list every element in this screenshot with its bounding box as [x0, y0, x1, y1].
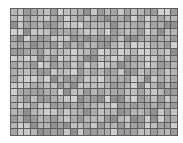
- mosaic-tile: [98, 83, 104, 89]
- mosaic-tile: [105, 83, 111, 89]
- mosaic-tile: [125, 103, 131, 109]
- mosaic-tile: [111, 83, 117, 89]
- mosaic-tile: [11, 109, 17, 115]
- mosaic-tile: [71, 49, 77, 55]
- mosaic-tile: [84, 129, 90, 135]
- mosaic-tile: [151, 56, 157, 62]
- mosaic-tile: [98, 103, 104, 109]
- mosaic-tile: [18, 29, 24, 35]
- mosaic-tile: [44, 9, 50, 15]
- mosaic-tile: [84, 123, 90, 129]
- mosaic-tile: [31, 49, 37, 55]
- mosaic-tile: [58, 49, 64, 55]
- mosaic-tile: [145, 109, 151, 115]
- mosaic-tile: [138, 83, 144, 89]
- mosaic-tile: [118, 89, 124, 95]
- mosaic-tile: [151, 96, 157, 102]
- mosaic-tile: [105, 49, 111, 55]
- mosaic-tile: [125, 29, 131, 35]
- mosaic-tile: [18, 49, 24, 55]
- mosaic-tile: [111, 96, 117, 102]
- mosaic-tile: [58, 83, 64, 89]
- mosaic-tile: [98, 42, 104, 48]
- mosaic-tile: [125, 89, 131, 95]
- mosaic-tile: [145, 123, 151, 129]
- mosaic-tile: [38, 36, 44, 42]
- mosaic-tile: [145, 116, 151, 122]
- mosaic-tile: [125, 9, 131, 15]
- mosaic-tile: [51, 36, 57, 42]
- mosaic-tile: [24, 9, 30, 15]
- mosaic-tile: [105, 96, 111, 102]
- mosaic-tile: [78, 76, 84, 82]
- mosaic-tile: [111, 36, 117, 42]
- mosaic-tile: [78, 123, 84, 129]
- mosaic-tile: [125, 76, 131, 82]
- mosaic-tile: [111, 89, 117, 95]
- mosaic-tile: [18, 116, 24, 122]
- mosaic-tile: [98, 62, 104, 68]
- mosaic-tile: [31, 96, 37, 102]
- mosaic-tile: [11, 56, 17, 62]
- mosaic-tile: [118, 62, 124, 68]
- mosaic-tile: [151, 36, 157, 42]
- mosaic-tile-sheet: [10, 8, 178, 136]
- mosaic-tile: [84, 69, 90, 75]
- mosaic-tile: [44, 76, 50, 82]
- mosaic-tile: [18, 103, 24, 109]
- mosaic-tile: [98, 22, 104, 28]
- mosaic-tile: [38, 42, 44, 48]
- mosaic-tile: [111, 123, 117, 129]
- mosaic-tile: [138, 123, 144, 129]
- mosaic-tile: [125, 49, 131, 55]
- mosaic-tile: [91, 62, 97, 68]
- mosaic-tile: [78, 116, 84, 122]
- mosaic-tile: [64, 62, 70, 68]
- mosaic-tile: [145, 9, 151, 15]
- mosaic-tile: [51, 83, 57, 89]
- mosaic-tile: [58, 42, 64, 48]
- mosaic-tile: [158, 83, 164, 89]
- mosaic-tile: [44, 16, 50, 22]
- mosaic-tile: [111, 109, 117, 115]
- mosaic-tile: [158, 42, 164, 48]
- mosaic-tile: [64, 123, 70, 129]
- mosaic-tile: [118, 49, 124, 55]
- mosaic-tile: [171, 116, 177, 122]
- mosaic-tile: [171, 22, 177, 28]
- mosaic-tile: [24, 103, 30, 109]
- mosaic-tile: [84, 42, 90, 48]
- mosaic-tile: [165, 62, 171, 68]
- mosaic-tile: [145, 29, 151, 35]
- mosaic-tile: [84, 16, 90, 22]
- mosaic-tile: [64, 89, 70, 95]
- mosaic-tile: [118, 16, 124, 22]
- mosaic-tile: [118, 9, 124, 15]
- mosaic-tile: [105, 129, 111, 135]
- mosaic-tile: [111, 49, 117, 55]
- mosaic-tile: [151, 103, 157, 109]
- mosaic-tile: [111, 69, 117, 75]
- mosaic-tile: [78, 36, 84, 42]
- mosaic-tile: [125, 42, 131, 48]
- mosaic-tile: [18, 129, 24, 135]
- mosaic-tile: [84, 103, 90, 109]
- mosaic-tile: [24, 123, 30, 129]
- mosaic-tile: [58, 62, 64, 68]
- mosaic-tile: [31, 16, 37, 22]
- mosaic-tile: [98, 116, 104, 122]
- mosaic-tile: [44, 36, 50, 42]
- mosaic-tile: [31, 83, 37, 89]
- mosaic-tile: [24, 56, 30, 62]
- mosaic-tile: [151, 76, 157, 82]
- mosaic-tile: [91, 36, 97, 42]
- mosaic-tile: [71, 69, 77, 75]
- mosaic-tile: [105, 116, 111, 122]
- mosaic-tile: [158, 123, 164, 129]
- mosaic-tile: [91, 109, 97, 115]
- mosaic-tile: [118, 83, 124, 89]
- mosaic-tile: [145, 96, 151, 102]
- mosaic-tile: [165, 83, 171, 89]
- mosaic-tile: [98, 129, 104, 135]
- mosaic-tile: [91, 56, 97, 62]
